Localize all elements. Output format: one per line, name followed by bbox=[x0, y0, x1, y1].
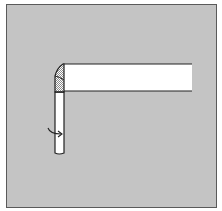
fold-corner bbox=[55, 64, 64, 92]
horizontal-strip bbox=[63, 64, 192, 91]
vertical-strip bbox=[55, 92, 64, 154]
folding-diagram bbox=[0, 0, 222, 211]
